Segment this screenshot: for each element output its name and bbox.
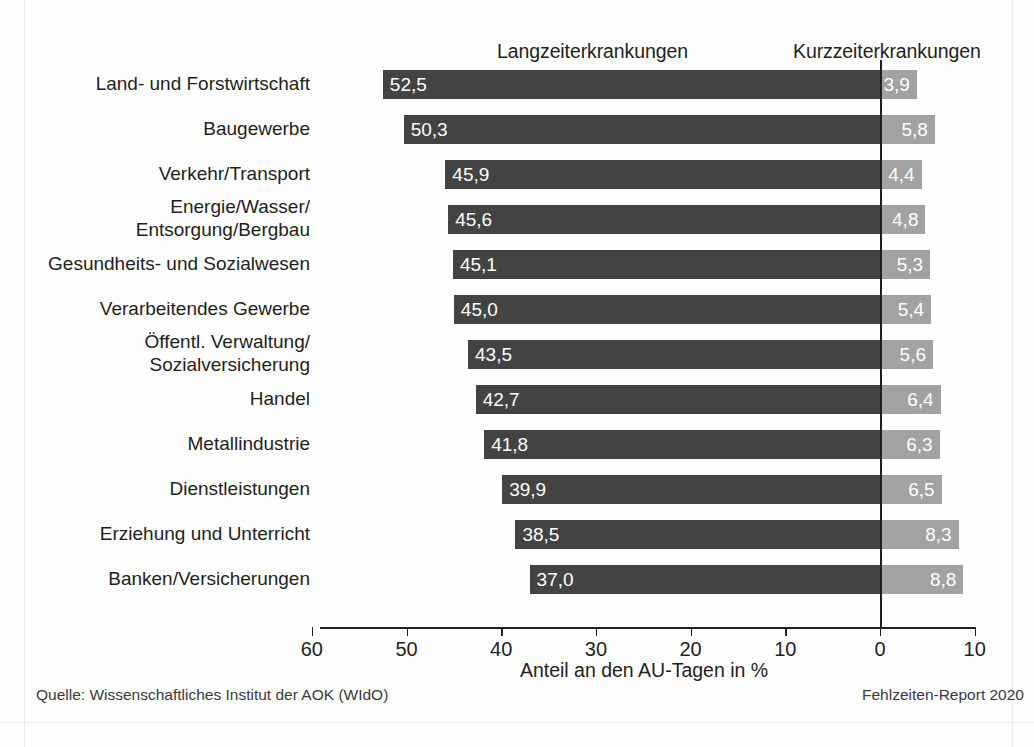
plot-area: Land- und Forstwirtschaft52,53,9Baugewer… [0, 68, 1034, 620]
x-axis-tick [501, 627, 502, 636]
category-label: Energie/Wasser/ Entsorgung/Bergbau [10, 195, 310, 241]
bar-value-long-term: 42,7 [483, 389, 520, 411]
bar-value-short-term: 5,6 [900, 344, 926, 366]
x-axis-tick-label: 60 [301, 638, 323, 661]
x-axis-tick [407, 627, 408, 636]
x-axis-line [320, 627, 975, 629]
bar-short-term: 6,3 [880, 430, 940, 459]
chart-row: Banken/Versicherungen37,08,8 [0, 563, 1034, 608]
bar-value-long-term: 45,6 [455, 209, 492, 231]
bar-long-term: 43,5 [468, 340, 880, 369]
zero-axis-line [880, 60, 882, 629]
x-axis-title: Anteil an den AU-Tagen in % [0, 659, 1034, 682]
category-label: Verarbeitendes Gewerbe [10, 293, 310, 320]
bar-short-term: 5,3 [880, 250, 930, 279]
x-axis-tick-label: 20 [679, 638, 701, 661]
bar-short-term: 5,8 [880, 115, 935, 144]
bar-value-long-term: 39,9 [509, 479, 546, 501]
category-label: Land- und Forstwirtschaft [10, 68, 310, 95]
bar-value-short-term: 8,3 [925, 524, 951, 546]
bar-value-short-term: 5,8 [902, 119, 928, 141]
category-label: Dienstleistungen [10, 473, 310, 500]
page-edge-bottom [0, 722, 1034, 723]
x-axis-tick [691, 627, 692, 636]
x-axis-title-text: Anteil an den AU-Tagen in % [520, 659, 768, 681]
bar-long-term: 38,5 [515, 520, 880, 549]
chart-row: Baugewerbe50,35,8 [0, 113, 1034, 158]
bar-short-term: 8,3 [880, 520, 959, 549]
bar-value-long-term: 41,8 [491, 434, 528, 456]
bar-value-long-term: 38,5 [522, 524, 559, 546]
bar-value-long-term: 45,0 [461, 299, 498, 321]
category-label: Baugewerbe [10, 113, 310, 140]
x-axis-tick-label: 40 [490, 638, 512, 661]
x-axis-tick [596, 627, 597, 636]
category-label: Verkehr/Transport [10, 158, 310, 185]
bar-short-term: 5,4 [880, 295, 931, 324]
chart-row: Metallindustrie41,86,3 [0, 428, 1034, 473]
bar-long-term: 42,7 [476, 385, 880, 414]
chart-row: Gesundheits- und Sozialwesen45,15,3 [0, 248, 1034, 293]
chart-row: Handel42,76,4 [0, 383, 1034, 428]
bar-value-long-term: 45,1 [460, 254, 497, 276]
bar-long-term: 52,5 [383, 70, 880, 99]
bar-long-term: 50,3 [404, 115, 880, 144]
bar-short-term: 4,4 [880, 160, 922, 189]
bar-value-long-term: 45,9 [452, 164, 489, 186]
chart-row: Öffentl. Verwaltung/ Sozialversicherung4… [0, 338, 1034, 383]
chart-row: Land- und Forstwirtschaft52,53,9 [0, 68, 1034, 113]
x-axis-tick [975, 627, 976, 636]
bar-value-short-term: 6,5 [908, 479, 934, 501]
bar-short-term: 6,4 [880, 385, 941, 414]
bar-short-term: 3,9 [880, 70, 917, 99]
bar-value-short-term: 5,4 [898, 299, 924, 321]
x-axis-tick-label: 30 [585, 638, 607, 661]
x-axis-tick-label: 50 [395, 638, 417, 661]
x-axis-tick-label: 0 [874, 638, 885, 661]
chart-row: Energie/Wasser/ Entsorgung/Bergbau45,64,… [0, 203, 1034, 248]
x-axis-tick-label: 10 [774, 638, 796, 661]
chart-row: Erziehung und Unterricht38,58,3 [0, 518, 1034, 563]
bar-short-term: 5,6 [880, 340, 933, 369]
bar-long-term: 45,1 [453, 250, 880, 279]
bar-short-term: 4,8 [880, 205, 925, 234]
x-axis-tick [785, 627, 786, 636]
bar-value-short-term: 3,9 [884, 74, 910, 96]
bar-value-long-term: 50,3 [411, 119, 448, 141]
legend-label-short-term: Kurzzeiterkrankungen [793, 40, 981, 63]
bar-value-long-term: 37,0 [537, 569, 574, 591]
category-label: Metallindustrie [10, 428, 310, 455]
x-axis-tick [880, 627, 881, 636]
source-note: Quelle: Wissenschaftliches Institut der … [36, 686, 388, 704]
x-axis-tick [312, 627, 313, 636]
bar-value-short-term: 4,8 [892, 209, 918, 231]
bar-value-short-term: 6,3 [906, 434, 932, 456]
bar-long-term: 39,9 [502, 475, 880, 504]
category-label: Öffentl. Verwaltung/ Sozialversicherung [10, 330, 310, 376]
bar-long-term: 37,0 [530, 565, 880, 594]
bar-value-long-term: 52,5 [390, 74, 427, 96]
chart-page: Langzeiterkrankungen Kurzzeiterkrankunge… [0, 0, 1034, 747]
chart-row: Dienstleistungen39,96,5 [0, 473, 1034, 518]
bar-value-short-term: 8,8 [930, 569, 956, 591]
category-label: Banken/Versicherungen [10, 563, 310, 590]
legend-label-long-term: Langzeiterkrankungen [497, 40, 688, 63]
category-label: Handel [10, 383, 310, 410]
category-label: Erziehung und Unterricht [10, 518, 310, 545]
bar-long-term: 45,9 [445, 160, 880, 189]
bar-short-term: 8,8 [880, 565, 963, 594]
x-axis-tick-label: 10 [964, 638, 986, 661]
bar-long-term: 45,6 [448, 205, 880, 234]
bar-value-short-term: 6,4 [907, 389, 933, 411]
report-note: Fehlzeiten-Report 2020 [862, 686, 1024, 704]
category-label: Gesundheits- und Sozialwesen [10, 248, 310, 275]
bar-long-term: 41,8 [484, 430, 880, 459]
bar-value-long-term: 43,5 [475, 344, 512, 366]
bar-short-term: 6,5 [880, 475, 942, 504]
bar-value-short-term: 5,3 [897, 254, 923, 276]
bar-long-term: 45,0 [454, 295, 880, 324]
bar-value-short-term: 4,4 [888, 164, 914, 186]
